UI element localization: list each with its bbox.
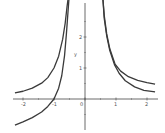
x-tick-label: -1 — [52, 101, 57, 107]
y-tick-label: 1 — [79, 65, 82, 71]
curve-1-branch — [103, 0, 155, 92]
curve-1-branch — [15, 0, 68, 93]
curve-2-branch — [103, 0, 155, 84]
y-tick-label: 2 — [79, 34, 82, 40]
x-tick-label: -2 — [21, 101, 26, 107]
axes: -2-1012 12 y — [13, 3, 158, 130]
x-tick-label: 2 — [145, 101, 148, 107]
x-tick-label: 1 — [114, 101, 117, 107]
x-tick-label: 0 — [80, 101, 83, 107]
chart-canvas: -2-1012 12 y — [0, 0, 165, 133]
y-axis-label: y — [74, 51, 77, 58]
